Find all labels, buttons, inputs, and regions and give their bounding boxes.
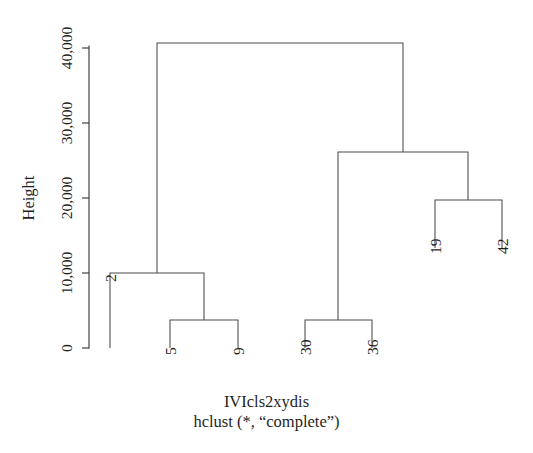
branch-merge-5-9 <box>170 320 238 348</box>
tick-label-10000: 10,000 <box>58 251 75 294</box>
leaf-label-36: 36 <box>364 339 381 355</box>
leaf-labels: 2 5 9 30 36 19 42 <box>102 238 511 355</box>
branch-merge-root <box>157 43 403 273</box>
tick-label-40000: 40,000 <box>58 26 75 69</box>
leaf-label-19: 19 <box>427 238 444 254</box>
dendrogram-branches <box>110 43 502 348</box>
y-axis: 0 10,000 20,000 30,000 40,000 Height <box>19 26 89 351</box>
y-axis-tick-labels: 0 10,000 20,000 30,000 40,000 <box>58 26 75 351</box>
tick-label-20000: 20,000 <box>58 176 75 219</box>
leaf-label-30: 30 <box>297 339 314 355</box>
y-axis-title: Height <box>19 175 38 220</box>
dendrogram-canvas: 0 10,000 20,000 30,000 40,000 Height <box>0 0 533 453</box>
branch-merge-right-group <box>338 152 468 320</box>
tick-label-0: 0 <box>58 344 75 352</box>
branch-merge-30-36 <box>305 320 372 348</box>
x-axis-title: IVIcls2xydis <box>0 392 533 411</box>
dendrogram-plot: 0 10,000 20,000 30,000 40,000 Height <box>0 0 533 453</box>
leaf-label-2: 2 <box>102 274 119 282</box>
branch-merge-2-with-5-9 <box>110 273 204 348</box>
tick-label-30000: 30,000 <box>58 101 75 144</box>
leaf-label-9: 9 <box>230 347 247 355</box>
leaf-label-5: 5 <box>162 347 179 355</box>
y-axis-ticks <box>82 48 89 348</box>
branch-merge-19-42 <box>435 200 502 248</box>
x-axis-subtitle: hclust (*, “complete”) <box>0 412 533 431</box>
leaf-label-42: 42 <box>494 239 511 255</box>
